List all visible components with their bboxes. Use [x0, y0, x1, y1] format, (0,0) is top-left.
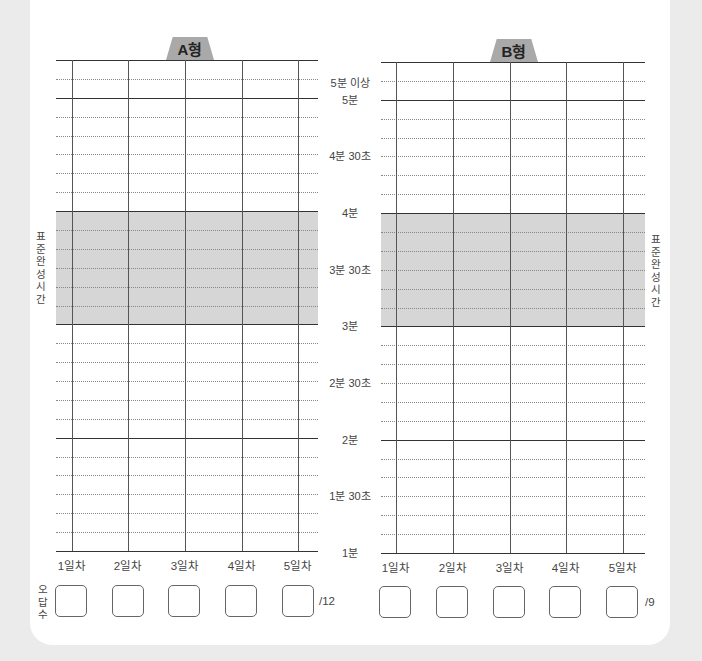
wrong-answer-total: /9	[645, 596, 655, 608]
grid-line-major	[56, 551, 318, 552]
grid-column-line	[298, 60, 299, 551]
grid-line-minor	[381, 119, 645, 120]
y-label: 4분	[310, 204, 390, 220]
grid-column-line	[396, 62, 397, 553]
standard-time-label-right: 표준완성시간	[650, 233, 662, 308]
grid-line-minor	[56, 494, 318, 495]
grid-line-minor	[56, 136, 318, 137]
grid-line-major	[381, 100, 645, 101]
y-label: 4분 30초	[310, 147, 390, 163]
grid-line-minor	[381, 477, 645, 478]
grid-line-minor	[56, 532, 318, 533]
chart-tab-b: B형	[490, 39, 538, 62]
y-label: 2분	[310, 431, 390, 447]
grid-line-minor	[56, 381, 318, 382]
grid-line-minor	[381, 232, 645, 233]
grid-column-line	[185, 60, 186, 551]
grid-line-minor	[381, 156, 645, 157]
grid-line-minor	[381, 289, 645, 290]
grid-line-minor	[381, 270, 645, 271]
chart-tab-a: A형	[166, 37, 214, 60]
grid-line-minor	[56, 117, 318, 118]
grid-line-minor	[56, 173, 318, 174]
grid-line-major	[56, 60, 318, 61]
grid-line-minor	[381, 308, 645, 309]
grid-column-line	[623, 62, 624, 553]
wrong-answer-input-day2[interactable]	[436, 586, 468, 618]
y-label: 5분 이상	[310, 74, 390, 90]
grid-line-minor	[381, 402, 645, 403]
y-label: 2분 30초	[310, 374, 390, 390]
day-label: 1일차	[371, 559, 421, 575]
grid-line-minor	[381, 81, 645, 82]
grid-line-minor	[56, 343, 318, 344]
grid-column-line	[128, 60, 129, 551]
day-label: 2일차	[428, 559, 478, 575]
grid-line-minor	[56, 419, 318, 420]
grid-line-major	[56, 438, 318, 439]
grid-line-major	[381, 440, 645, 441]
grid-line-minor	[381, 138, 645, 139]
standard-time-label-left: 표준완성시간	[35, 230, 47, 305]
grid-line-minor	[381, 515, 645, 516]
wrong-answer-input-day5[interactable]	[606, 586, 638, 618]
grid-line-minor	[56, 230, 318, 231]
grid-line-major	[56, 211, 318, 212]
wrong-answer-label: 오답수	[37, 583, 49, 621]
grid-line-minor	[56, 79, 318, 80]
wrong-answer-input-day4[interactable]	[225, 585, 257, 617]
grid-line-minor	[381, 345, 645, 346]
grid-column-line	[566, 62, 567, 553]
wrong-answer-input-day2[interactable]	[112, 585, 144, 617]
grid-line-minor	[56, 306, 318, 307]
grid-line-minor	[381, 251, 645, 252]
wrong-answer-input-day1[interactable]	[379, 586, 411, 618]
y-label: 3분	[310, 317, 390, 333]
grid-column-line	[242, 60, 243, 551]
grid-line-minor	[56, 457, 318, 458]
wrong-answer-input-day3[interactable]	[493, 586, 525, 618]
grid-line-minor	[381, 175, 645, 176]
grid-line-minor	[56, 513, 318, 514]
wrong-answer-input-day3[interactable]	[168, 585, 200, 617]
grid-line-minor	[381, 383, 645, 384]
y-label: 1분 30초	[310, 487, 390, 503]
grid-line-minor	[381, 364, 645, 365]
grid-line-minor	[56, 362, 318, 363]
grid-line-minor	[56, 192, 318, 193]
grid-column-line	[453, 62, 454, 553]
grid-line-major	[381, 326, 645, 327]
grid-line-minor	[381, 534, 645, 535]
day-label: 3일차	[160, 557, 210, 573]
wrong-answer-input-day4[interactable]	[549, 586, 581, 618]
wrong-answer-input-day1[interactable]	[55, 585, 87, 617]
grid-line-minor	[56, 249, 318, 250]
y-label: 5분	[310, 91, 390, 107]
grid-line-minor	[381, 421, 645, 422]
day-label: 5일차	[598, 559, 648, 575]
grid-line-major	[56, 324, 318, 325]
day-label: 3일차	[485, 559, 535, 575]
grid-line-minor	[56, 268, 318, 269]
day-label: 1일차	[47, 557, 97, 573]
grid-column-line	[72, 60, 73, 551]
grid-line-major	[56, 98, 318, 99]
grid-line-minor	[56, 400, 318, 401]
day-label: 4일차	[217, 557, 267, 573]
grid-line-minor	[381, 496, 645, 497]
day-label: 4일차	[541, 559, 591, 575]
y-label: 1분	[310, 544, 390, 560]
grid-column-line	[510, 62, 511, 553]
grid-line-minor	[56, 154, 318, 155]
grid-line-major	[381, 213, 645, 214]
grid-line-minor	[56, 287, 318, 288]
y-label: 3분 30초	[310, 261, 390, 277]
grid-line-minor	[381, 194, 645, 195]
day-label: 2일차	[103, 557, 153, 573]
grid-line-minor	[56, 475, 318, 476]
wrong-answer-total: /12	[319, 595, 335, 607]
grid-line-minor	[381, 459, 645, 460]
grid-line-major	[381, 553, 645, 554]
grid-line-major	[381, 62, 645, 63]
wrong-answer-input-day5[interactable]	[282, 585, 314, 617]
